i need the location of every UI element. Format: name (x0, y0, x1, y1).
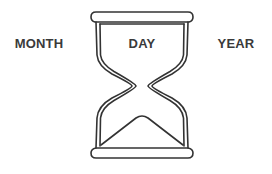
month-label: MONTH (8, 36, 70, 51)
year-label: YEAR (214, 36, 258, 51)
day-label: DAY (118, 36, 166, 51)
hourglass-icon (0, 0, 272, 174)
